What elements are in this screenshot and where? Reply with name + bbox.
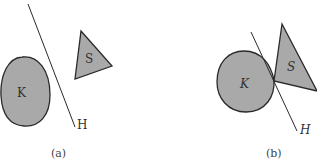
label-h-b: H bbox=[299, 123, 311, 137]
separation-diagram: K S H (a) K S H (b) bbox=[0, 0, 317, 160]
panel-a: K S H (a) bbox=[1, 4, 112, 160]
triangle-s-a bbox=[75, 31, 112, 79]
label-k-b: K bbox=[239, 77, 250, 91]
label-k-a: K bbox=[17, 86, 27, 100]
caption-a: (a) bbox=[51, 147, 66, 160]
label-s-b: S bbox=[287, 60, 295, 74]
triangle-s-b bbox=[274, 24, 317, 91]
caption-b: (b) bbox=[266, 147, 282, 160]
label-h-a: H bbox=[77, 118, 87, 132]
label-s-a: S bbox=[85, 52, 93, 66]
panel-b: K S H (b) bbox=[217, 24, 317, 160]
